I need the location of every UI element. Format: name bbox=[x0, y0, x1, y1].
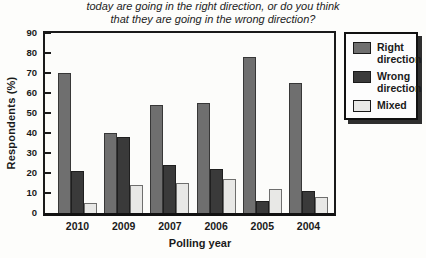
chart-title: today are going in the right direction, … bbox=[0, 0, 426, 26]
y-tick-mark bbox=[45, 32, 51, 34]
y-tick-label: 0 bbox=[1, 207, 37, 219]
legend-label: Mixed bbox=[377, 99, 407, 111]
bar-mixed-2009 bbox=[130, 185, 143, 213]
legend-label: Wrong direction bbox=[377, 70, 421, 94]
y-tick-mark bbox=[45, 172, 51, 174]
poll-bar-chart-figure: today are going in the right direction, … bbox=[0, 0, 426, 258]
legend-label: Right direction bbox=[377, 41, 421, 65]
y-tick-mark bbox=[45, 132, 51, 134]
bar-right-direction-2005 bbox=[243, 57, 256, 213]
legend-swatch-mixed bbox=[353, 100, 371, 112]
bar-wrong-direction-2006 bbox=[210, 169, 223, 213]
bar-mixed-2007 bbox=[176, 183, 189, 213]
legend-swatch-right-direction bbox=[353, 42, 371, 54]
bar-wrong-direction-2009 bbox=[117, 137, 130, 213]
legend-item-mixed: Mixed bbox=[353, 99, 411, 112]
y-tick-label: 60 bbox=[1, 87, 37, 99]
bar-right-direction-2004 bbox=[289, 83, 302, 213]
bar-right-direction-2010 bbox=[58, 73, 71, 213]
bar-wrong-direction-2005 bbox=[256, 201, 269, 213]
y-tick-label: 70 bbox=[1, 67, 37, 79]
bar-right-direction-2009 bbox=[104, 133, 117, 213]
bar-mixed-2005 bbox=[269, 189, 282, 213]
x-tick-label-2007: 2007 bbox=[147, 220, 193, 232]
bar-wrong-direction-2007 bbox=[163, 165, 176, 213]
legend: Right directionWrong directionMixed bbox=[344, 32, 418, 120]
legend-item-right-direction: Right direction bbox=[353, 41, 411, 65]
y-tick-mark bbox=[45, 72, 51, 74]
y-tick-mark bbox=[45, 152, 51, 154]
y-tick-label: 10 bbox=[1, 187, 37, 199]
y-axis-label: Respondents (%) bbox=[5, 68, 17, 178]
x-tick-label-2006: 2006 bbox=[193, 220, 239, 232]
y-tick-mark bbox=[45, 192, 51, 194]
y-tick-label: 30 bbox=[1, 147, 37, 159]
y-tick-label: 40 bbox=[1, 127, 37, 139]
bar-wrong-direction-2004 bbox=[302, 191, 315, 213]
legend-item-wrong-direction: Wrong direction bbox=[353, 70, 411, 94]
y-tick-label: 50 bbox=[1, 107, 37, 119]
legend-swatch-wrong-direction bbox=[353, 71, 371, 83]
bar-right-direction-2007 bbox=[150, 105, 163, 213]
x-tick-label-2010: 2010 bbox=[55, 220, 101, 232]
plot-area bbox=[43, 31, 336, 216]
bar-right-direction-2006 bbox=[197, 103, 210, 213]
bar-mixed-2010 bbox=[84, 203, 97, 213]
x-axis-label: Polling year bbox=[110, 237, 290, 249]
bar-mixed-2004 bbox=[315, 197, 328, 213]
x-tick-label-2005: 2005 bbox=[239, 220, 285, 232]
y-tick-mark bbox=[45, 52, 51, 54]
bar-wrong-direction-2010 bbox=[71, 171, 84, 213]
chart-title-line-1: today are going in the right direction, … bbox=[0, 0, 426, 13]
chart-title-line-2: that they are going in the wrong directi… bbox=[0, 13, 426, 26]
x-tick-label-2004: 2004 bbox=[286, 220, 332, 232]
x-tick-label-2009: 2009 bbox=[101, 220, 147, 232]
bar-mixed-2006 bbox=[223, 179, 236, 213]
y-tick-label: 90 bbox=[1, 27, 37, 39]
y-tick-mark bbox=[45, 112, 51, 114]
y-tick-label: 20 bbox=[1, 167, 37, 179]
y-tick-label: 80 bbox=[1, 47, 37, 59]
y-tick-mark bbox=[45, 92, 51, 94]
